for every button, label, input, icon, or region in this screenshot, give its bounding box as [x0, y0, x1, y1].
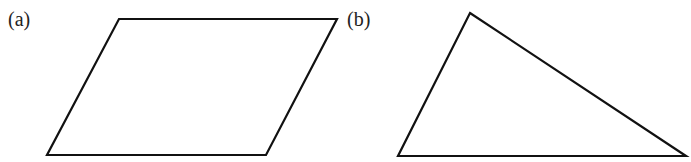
parallelogram-shape	[47, 19, 337, 155]
diagram-canvas	[0, 0, 691, 162]
triangle-shape	[398, 13, 686, 156]
figure-a-label: (a)	[8, 9, 30, 29]
figure-b-label: (b)	[347, 9, 370, 29]
